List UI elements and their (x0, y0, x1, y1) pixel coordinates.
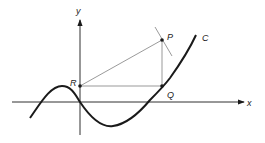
curve-c (30, 35, 196, 126)
point-q (160, 84, 164, 88)
curve-label: C (202, 33, 209, 43)
diagram: x y C P Q R (0, 0, 265, 143)
y-axis-label: y (75, 6, 81, 16)
point-p (160, 38, 164, 42)
point-r (78, 84, 82, 88)
point-q-label: Q (167, 90, 174, 100)
segment-rp (80, 40, 162, 86)
x-axis-label: x (246, 98, 252, 108)
point-r-label: R (70, 78, 77, 88)
point-p-label: P (167, 32, 173, 42)
